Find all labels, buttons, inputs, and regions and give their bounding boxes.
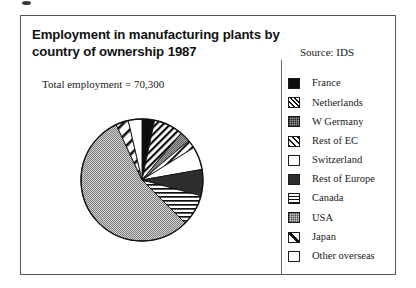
legend-item[interactable]: Other overseas <box>288 247 398 266</box>
legend-swatch-horizontal-lines <box>288 193 300 204</box>
legend-item-label: Rest of EC <box>312 136 358 147</box>
legend-item-label: Canada <box>312 193 344 204</box>
legend-item[interactable]: W Germany <box>288 112 398 131</box>
figure-page: Employment in manufacturing plants by co… <box>0 0 416 288</box>
legend: FranceNetherlandsW GermanyRest of ECSwit… <box>288 74 398 266</box>
legend-item[interactable]: Rest of Europe <box>288 170 398 189</box>
legend-item-label: W Germany <box>312 117 363 128</box>
source-note: Source: IDS <box>300 46 354 58</box>
legend-item[interactable]: Rest of EC <box>288 132 398 151</box>
legend-swatch-light-checker <box>288 212 300 223</box>
legend-item[interactable]: Netherlands <box>288 93 398 112</box>
legend-item[interactable]: Switzerland <box>288 151 398 170</box>
legend-swatch-white <box>288 251 300 262</box>
legend-item[interactable]: Japan <box>288 228 398 247</box>
page-title: Employment in manufacturing plants by co… <box>32 26 282 60</box>
legend-swatch-grey-dotted <box>288 116 300 127</box>
legend-item[interactable]: Canada <box>288 189 398 208</box>
scan-artifact-speck <box>22 1 31 5</box>
title-line-1: Employment in manufacturing plants by <box>32 27 280 42</box>
legend-item-label: USA <box>312 213 333 224</box>
legend-item-label: Rest of Europe <box>312 174 375 185</box>
legend-swatch-dark-grey <box>288 174 300 185</box>
title-line-2: country of ownership 1987 <box>32 43 282 60</box>
legend-divider <box>281 60 282 274</box>
total-employment-label: Total employment = 70,300 <box>42 78 164 90</box>
legend-item-label: France <box>312 78 341 89</box>
legend-item-label: Other overseas <box>312 251 375 262</box>
legend-item[interactable]: USA <box>288 208 398 227</box>
legend-item-label: Switzerland <box>312 155 362 166</box>
pie-chart-svg <box>78 116 206 244</box>
legend-swatch-single-diagonal <box>288 232 300 243</box>
legend-swatch-diagonal-dense <box>288 97 300 108</box>
legend-swatch-solid-black <box>288 78 300 89</box>
legend-item-label: Netherlands <box>312 98 363 109</box>
legend-swatch-white <box>288 155 300 166</box>
legend-item-label: Japan <box>312 232 336 243</box>
pie-chart <box>78 116 206 244</box>
legend-item[interactable]: France <box>288 74 398 93</box>
legend-swatch-diagonal-medium <box>288 136 300 147</box>
